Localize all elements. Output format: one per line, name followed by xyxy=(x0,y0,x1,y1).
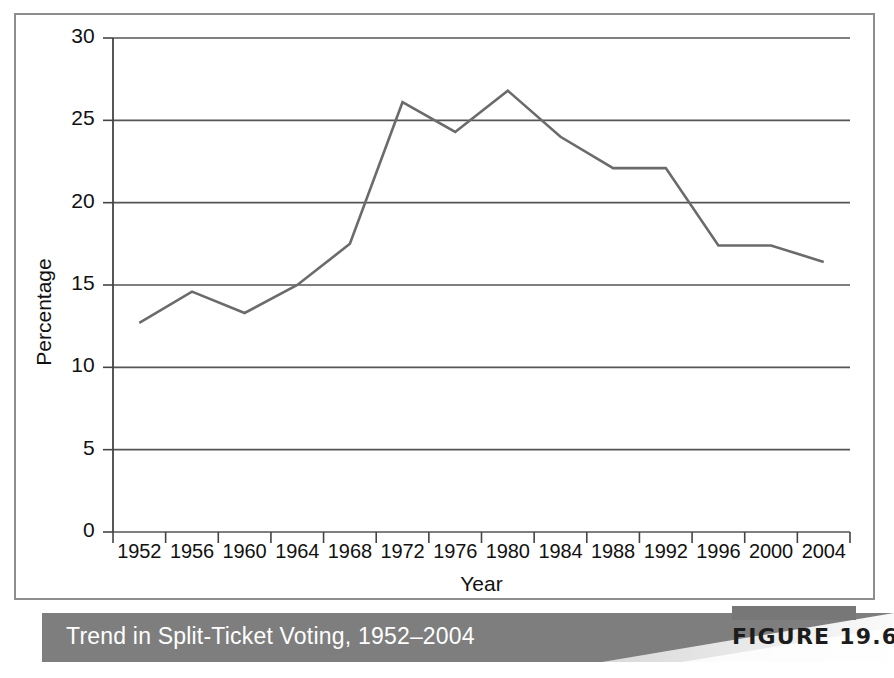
y-axis-tick-label: 20 xyxy=(35,189,95,213)
y-axis-title: Percentage xyxy=(32,232,56,392)
chart-frame xyxy=(14,13,875,600)
figure-tag-bar xyxy=(732,606,856,620)
y-axis-tick-label: 25 xyxy=(35,106,95,130)
figure-tag: FIGURE 19.6 xyxy=(732,606,858,658)
x-axis-title: Year xyxy=(113,572,850,596)
figure-caption-text: Trend in Split-Ticket Voting, 1952–2004 xyxy=(66,623,475,650)
figure-card: 302520151050 Percentage 1952195619601964… xyxy=(0,0,894,678)
figure-tag-label: FIGURE 19.6 xyxy=(732,624,858,649)
y-axis-tick-label: 30 xyxy=(35,24,95,48)
y-axis-tick-label: 0 xyxy=(35,518,95,542)
x-axis-tick-label: 2004 xyxy=(792,540,856,563)
y-axis-tick-label: 5 xyxy=(35,436,95,460)
